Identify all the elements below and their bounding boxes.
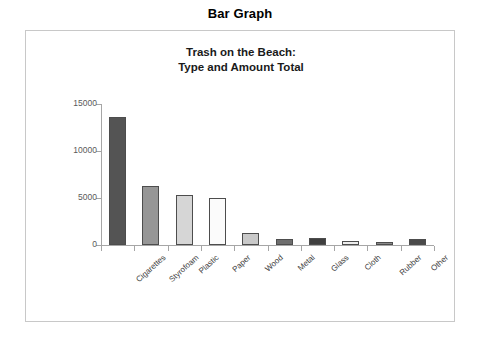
x-label-styrofoam: Styrofoam bbox=[167, 253, 200, 284]
bar-other bbox=[409, 239, 426, 245]
x-label-rubber: Rubber bbox=[398, 253, 424, 277]
bar-styrofoam bbox=[142, 186, 159, 245]
x-tick-mark bbox=[401, 246, 402, 251]
chart-title: Trash on the Beach: Type and Amount Tota… bbox=[26, 45, 456, 75]
bar-plastic bbox=[176, 195, 193, 245]
bar-cloth bbox=[342, 241, 359, 245]
x-label-glass: Glass bbox=[330, 253, 351, 273]
bar-wood bbox=[242, 233, 259, 245]
x-label-cigarettes: Cigarettes bbox=[134, 253, 167, 284]
x-tick-mark bbox=[367, 246, 368, 251]
bar-rubber bbox=[376, 242, 393, 245]
x-label-other: Other bbox=[429, 253, 450, 273]
x-label-paper: Paper bbox=[230, 253, 252, 274]
x-label-metal: Metal bbox=[296, 253, 317, 273]
x-label-plastic: Plastic bbox=[197, 253, 221, 275]
plot-area: 050001000015000 CigarettesStyrofoamPlast… bbox=[101, 101, 434, 245]
x-label-cloth: Cloth bbox=[363, 253, 383, 272]
chart-title-line-1: Trash on the Beach: bbox=[26, 45, 456, 60]
x-tick-mark bbox=[101, 246, 102, 251]
x-label-wood: Wood bbox=[263, 253, 284, 274]
y-tick-label: 5000 bbox=[78, 192, 97, 202]
chart-frame: Trash on the Beach: Type and Amount Tota… bbox=[25, 30, 455, 322]
x-tick-mark bbox=[301, 246, 302, 251]
page-title: Bar Graph bbox=[0, 6, 480, 21]
bar-glass bbox=[309, 238, 326, 245]
bar-metal bbox=[276, 239, 293, 245]
x-tick-mark bbox=[168, 246, 169, 251]
bar-cigarettes bbox=[109, 117, 126, 245]
bar-paper bbox=[209, 198, 226, 245]
x-tick-mark bbox=[268, 246, 269, 251]
x-tick-mark bbox=[201, 246, 202, 251]
x-tick-mark bbox=[234, 246, 235, 251]
y-tick-label: 0 bbox=[92, 239, 97, 249]
y-tick-label: 10000 bbox=[73, 145, 97, 155]
x-tick-mark bbox=[434, 246, 435, 251]
x-tick-mark bbox=[334, 246, 335, 251]
chart-title-line-2: Type and Amount Total bbox=[26, 60, 456, 75]
y-tick-label: 15000 bbox=[73, 98, 97, 108]
y-axis-line bbox=[101, 104, 102, 245]
x-tick-mark bbox=[134, 246, 135, 251]
